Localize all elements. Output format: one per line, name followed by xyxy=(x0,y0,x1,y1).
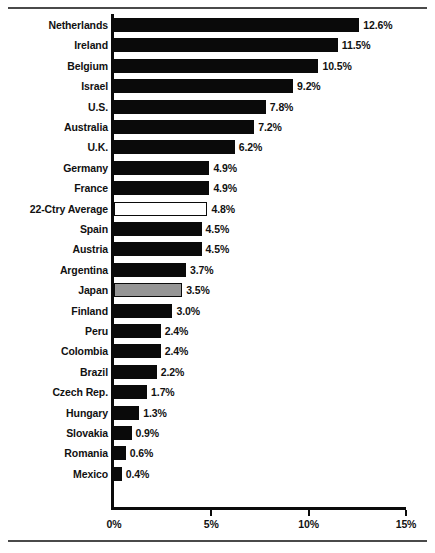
category-label: Romania xyxy=(0,446,108,461)
bar xyxy=(114,38,338,52)
bar-value-label: 0.9% xyxy=(136,426,160,441)
category-label: Austria xyxy=(0,242,108,257)
x-axis-tick-label: 0% xyxy=(107,518,122,530)
bar xyxy=(114,202,207,216)
category-label: Czech Rep. xyxy=(0,385,108,400)
bar xyxy=(114,79,293,93)
figure-bottom-rule xyxy=(8,540,427,542)
bar-value-label: 1.3% xyxy=(143,406,167,421)
bar-value-label: 0.4% xyxy=(126,467,150,482)
bar xyxy=(114,467,122,481)
bar-value-label: 2.2% xyxy=(161,365,185,380)
bar-row: Israel9.2% xyxy=(0,79,435,99)
chart-figure: Netherlands12.6%Ireland11.5%Belgium10.5%… xyxy=(0,0,435,553)
bar xyxy=(114,120,254,134)
category-label: Brazil xyxy=(0,365,108,380)
bar-value-label: 4.9% xyxy=(213,181,237,196)
bar-value-label: 2.4% xyxy=(165,344,189,359)
bar-value-label: 9.2% xyxy=(297,79,321,94)
category-label: Colombia xyxy=(0,344,108,359)
bar-value-label: 4.8% xyxy=(211,202,235,217)
bar-value-label: 11.5% xyxy=(342,38,371,53)
bar xyxy=(114,263,186,277)
bar xyxy=(114,344,161,358)
bar-row: Finland3.0% xyxy=(0,304,435,324)
bar-value-label: 3.0% xyxy=(176,304,200,319)
bar-row: Netherlands12.6% xyxy=(0,18,435,38)
bar-row: Mexico0.4% xyxy=(0,467,435,487)
bar-row: Germany4.9% xyxy=(0,161,435,181)
category-label: Belgium xyxy=(0,59,108,74)
bar xyxy=(114,406,139,420)
bar xyxy=(114,18,359,32)
bar-value-label: 12.6% xyxy=(363,18,392,33)
bar xyxy=(114,446,126,460)
bar xyxy=(114,324,161,338)
category-label: U.K. xyxy=(0,140,108,155)
bar-row: Argentina3.7% xyxy=(0,263,435,283)
bar-row: Japan3.5% xyxy=(0,283,435,303)
category-label: Mexico xyxy=(0,467,108,482)
category-label: Finland xyxy=(0,304,108,319)
bar-row: Brazil2.2% xyxy=(0,365,435,385)
bar-row: Romania0.6% xyxy=(0,446,435,466)
bar xyxy=(114,140,235,154)
x-axis-line xyxy=(111,507,406,510)
category-label: Netherlands xyxy=(0,18,108,33)
bar-row: Austria4.5% xyxy=(0,242,435,262)
category-label: Japan xyxy=(0,283,108,298)
bar xyxy=(114,385,147,399)
category-label: Spain xyxy=(0,222,108,237)
bar-value-label: 3.5% xyxy=(186,283,210,298)
bar xyxy=(114,304,172,318)
bar-row: Slovakia0.9% xyxy=(0,426,435,446)
category-label: 22-Ctry Average xyxy=(0,202,108,217)
x-axis-tick xyxy=(308,510,310,516)
x-axis-tick xyxy=(210,510,212,516)
bar-value-label: 2.4% xyxy=(165,324,189,339)
category-label: Argentina xyxy=(0,263,108,278)
bar-value-label: 4.5% xyxy=(206,242,230,257)
bar-row: Australia7.2% xyxy=(0,120,435,140)
bar xyxy=(114,242,202,256)
bar xyxy=(114,100,266,114)
x-axis-tick xyxy=(405,510,407,516)
bar-value-label: 7.2% xyxy=(258,120,282,135)
bar xyxy=(114,222,202,236)
x-axis-tick-label: 10% xyxy=(298,518,319,530)
bar-value-label: 4.9% xyxy=(213,161,237,176)
bar-row: France4.9% xyxy=(0,181,435,201)
category-label: Israel xyxy=(0,79,108,94)
category-label: Australia xyxy=(0,120,108,135)
bar-row: 22-Ctry Average4.8% xyxy=(0,202,435,222)
bar-value-label: 3.7% xyxy=(190,263,214,278)
y-axis-line xyxy=(111,14,114,510)
category-label: U.S. xyxy=(0,100,108,115)
x-axis-tick-label: 5% xyxy=(204,518,219,530)
bar-row: Ireland11.5% xyxy=(0,38,435,58)
category-label: Slovakia xyxy=(0,426,108,441)
bar-row: U.S.7.8% xyxy=(0,100,435,120)
bar-value-label: 0.6% xyxy=(130,446,154,461)
bar xyxy=(114,365,157,379)
bar-value-label: 7.8% xyxy=(270,100,294,115)
bar-row: U.K.6.2% xyxy=(0,140,435,160)
category-label: France xyxy=(0,181,108,196)
category-label: Peru xyxy=(0,324,108,339)
category-label: Ireland xyxy=(0,38,108,53)
bar-row: Belgium10.5% xyxy=(0,59,435,79)
bar-value-label: 10.5% xyxy=(322,59,351,74)
bar-value-label: 6.2% xyxy=(239,140,263,155)
bar xyxy=(114,161,209,175)
bar xyxy=(114,426,132,440)
bar-value-label: 1.7% xyxy=(151,385,175,400)
bar xyxy=(114,59,318,73)
bar-row: Peru2.4% xyxy=(0,324,435,344)
bar xyxy=(114,283,182,297)
category-label: Hungary xyxy=(0,406,108,421)
bar-row: Czech Rep.1.7% xyxy=(0,385,435,405)
bar-value-label: 4.5% xyxy=(206,222,230,237)
bar xyxy=(114,181,209,195)
plot-area: Netherlands12.6%Ireland11.5%Belgium10.5%… xyxy=(0,0,435,553)
bar-row: Colombia2.4% xyxy=(0,344,435,364)
